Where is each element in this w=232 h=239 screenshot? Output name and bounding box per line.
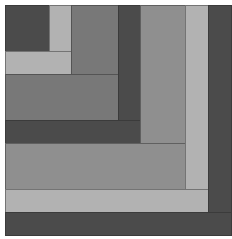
dark-horizontal-strip-6	[5, 212, 232, 236]
light-vertical-strip-5	[185, 5, 209, 213]
light-horizontal-strip-1	[5, 51, 72, 75]
medium-light-horizontal-block-4	[5, 143, 186, 190]
light-vertical-strip-1	[49, 5, 72, 52]
center-dark-square	[5, 5, 50, 52]
light-horizontal-strip-5	[5, 189, 209, 213]
medium-vertical-block-2	[71, 5, 119, 75]
medium-horizontal-block-2	[5, 74, 119, 121]
dark-horizontal-strip-3	[5, 120, 141, 144]
dark-vertical-strip-6	[208, 5, 232, 236]
